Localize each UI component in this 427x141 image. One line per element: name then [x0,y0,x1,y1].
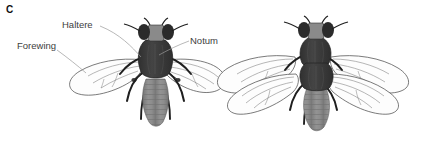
annotation-label-forewing: Forewing [17,40,56,51]
annotation-label-haltere: Haltere [62,19,93,30]
fly-bithorax-mutant [217,16,408,131]
leader-forewing [57,50,86,73]
left-fly-abdomen [143,79,169,126]
right-fly-abdomen [304,88,330,131]
right-fly-notum-posterior [300,63,333,91]
right-fly-head [284,16,348,39]
left-fly-forewing [70,59,144,95]
figure-panel-c: C [0,0,427,141]
annotation-label-notum: Notum [190,35,218,46]
leader-haltere [100,26,141,57]
left-fly-notum [138,40,172,78]
left-fly-head [124,18,188,41]
